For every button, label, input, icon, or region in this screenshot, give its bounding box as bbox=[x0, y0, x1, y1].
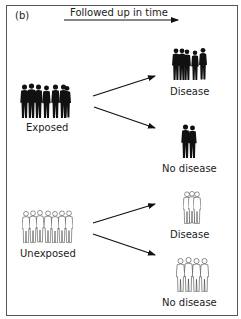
group-label-exposed: Exposed bbox=[26, 122, 68, 133]
arrow-exposed-nodisease bbox=[94, 107, 155, 128]
group-label-unexposed: Unexposed bbox=[20, 248, 76, 259]
exposed-people-icon bbox=[20, 83, 71, 118]
arrow-exposed-disease bbox=[93, 76, 155, 96]
exposed-nodisease-people-icon bbox=[181, 124, 196, 158]
unexposed-nodisease-people-icon bbox=[176, 257, 209, 292]
outcome-label-unexposed-nodisease: No disease bbox=[162, 297, 217, 308]
unexposed-disease-people-icon bbox=[183, 191, 201, 223]
outcome-label-exposed-disease: Disease bbox=[170, 86, 209, 97]
outcome-label-unexposed-disease: Disease bbox=[170, 229, 209, 240]
arrow-unexposed-nodisease bbox=[93, 234, 155, 255]
unexposed-people-icon bbox=[22, 210, 73, 243]
arrow-unexposed-disease bbox=[93, 204, 155, 223]
outcome-label-exposed-nodisease: No disease bbox=[162, 163, 217, 174]
diagram-arrows bbox=[0, 0, 241, 319]
exposed-disease-people-icon bbox=[172, 48, 207, 80]
